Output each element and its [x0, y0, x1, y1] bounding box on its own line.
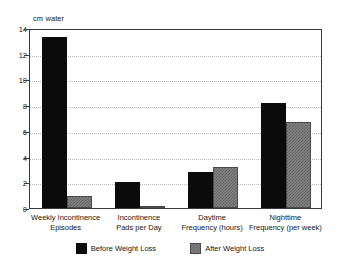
y-axis-unit-label: cm water	[33, 14, 64, 23]
category-label-line: Nighttime	[249, 213, 322, 223]
x-axis-category-label: DaytimeFrequency (hours)	[176, 213, 249, 232]
category-label-line: Incontinence	[102, 213, 175, 223]
bar-before-0	[42, 37, 67, 208]
gridline	[30, 81, 321, 82]
legend-item-before[interactable]: Before Weight Loss	[76, 243, 156, 254]
x-axis-category-label: Weekly IncontinenceEpisodes	[29, 213, 102, 232]
category-label-line: Weekly Incontinence	[29, 213, 102, 223]
bar-before-3	[261, 103, 286, 208]
category-label-line: Frequency (hours)	[176, 223, 249, 233]
bar-chart: cm water 02468101214 Weekly Incontinence…	[0, 0, 340, 264]
y-axis-tick-mark	[24, 209, 29, 210]
bar-after-0	[67, 196, 92, 208]
legend-item-after[interactable]: After Weight Loss	[190, 243, 264, 254]
category-label-line: Episodes	[29, 223, 102, 233]
bar-after-3	[286, 122, 311, 208]
legend-swatch-icon	[190, 243, 201, 254]
legend-label: Before Weight Loss	[91, 244, 156, 253]
legend-swatch-icon	[76, 243, 87, 254]
plot-area	[29, 29, 322, 209]
bar-before-1	[115, 182, 140, 208]
legend-label: After Weight Loss	[205, 244, 264, 253]
chart-legend: Before Weight LossAfter Weight Loss	[0, 243, 340, 254]
bar-after-1	[140, 206, 165, 208]
category-label-line: Pads per Day	[102, 223, 175, 233]
x-axis-category-label: IncontinencePads per Day	[102, 213, 175, 232]
category-label-line: Daytime	[176, 213, 249, 223]
gridline	[30, 56, 321, 57]
bar-before-2	[188, 172, 213, 208]
bar-after-2	[213, 167, 238, 208]
category-label-line: Frequency (per week)	[249, 223, 322, 233]
x-axis-category-label: NighttimeFrequency (per week)	[249, 213, 322, 232]
